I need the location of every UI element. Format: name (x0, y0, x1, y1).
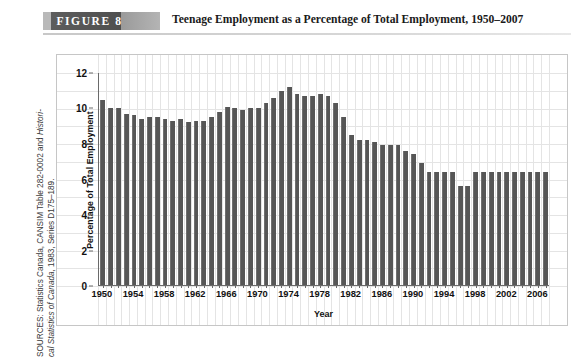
x-axis-tick (118, 285, 119, 288)
bar-slot (511, 73, 519, 285)
y-axis-tick (89, 143, 93, 144)
bar (100, 100, 105, 286)
x-axis-tick (219, 285, 220, 288)
bar (194, 121, 199, 285)
x-axis-tick (328, 285, 329, 288)
x-axis-tick (149, 285, 150, 288)
bar-slot (278, 73, 286, 285)
x-axis-tick (491, 285, 492, 288)
x-axis-tick (250, 285, 251, 288)
x-axis-tick (320, 285, 321, 288)
x-axis-tick-label: 1998 (465, 289, 486, 299)
source-line-1: SOURCES: Statistics Canada, CANSIM Table… (36, 135, 45, 357)
bar-slot (495, 73, 503, 285)
bar (240, 110, 245, 285)
bar (139, 119, 144, 285)
bar-slot (417, 73, 425, 285)
y-axis-tick (89, 179, 93, 180)
bar (427, 172, 432, 285)
x-axis-tick (546, 285, 547, 288)
header-divider (43, 33, 571, 35)
bar (201, 121, 206, 285)
x-axis-tick (134, 285, 135, 288)
x-axis-tick (414, 285, 415, 288)
y-axis-labels: Percentage of Total Employment 024681012 (53, 73, 93, 286)
x-axis-tick (452, 285, 453, 288)
bar-slot (433, 73, 441, 285)
bar-slot (456, 73, 464, 285)
bar (132, 115, 137, 285)
bar-slot (441, 73, 449, 285)
bar-slot (122, 73, 130, 285)
x-axis-tick (266, 285, 267, 288)
bar (318, 94, 323, 285)
y-axis-tick-label: 0 (81, 281, 87, 292)
bar-slot (379, 73, 387, 285)
x-axis-tick (507, 285, 508, 288)
plot-area (98, 73, 549, 286)
bar (520, 172, 525, 285)
x-axis-tick (375, 285, 376, 288)
x-axis-tick-label: 1990 (403, 289, 424, 299)
bar (155, 117, 160, 285)
bar-slot (542, 73, 550, 285)
bar (264, 103, 269, 285)
bar (310, 96, 315, 285)
bar (411, 154, 416, 285)
x-axis-tick (382, 285, 383, 288)
source-line-1-italic: Histori- (36, 109, 45, 135)
bar-slot (161, 73, 169, 285)
bar (465, 186, 470, 285)
bar (326, 96, 331, 285)
x-axis-tick (437, 285, 438, 288)
x-axis-tick-label: 1950 (92, 289, 113, 299)
y-axis-tick (89, 214, 93, 215)
bar (333, 103, 338, 285)
y-axis-tick-label: 8 (81, 138, 87, 149)
x-axis-tick (274, 285, 275, 288)
x-axis-tick-label: 1986 (371, 289, 392, 299)
bar (388, 145, 393, 285)
bar (170, 121, 175, 285)
bar (396, 145, 401, 285)
bar (489, 172, 494, 285)
bar (434, 172, 439, 285)
bar-slot (410, 73, 418, 285)
y-axis-tick (89, 108, 93, 109)
bar-slot (184, 73, 192, 285)
bar-series (99, 73, 549, 285)
bar (349, 135, 354, 285)
x-axis-tick (305, 285, 306, 288)
y-axis-tick-label: 4 (81, 209, 87, 220)
chart-frame: Percentage of Total Employment 024681012… (56, 54, 568, 326)
figure-number-badge: FIGURE 8 (43, 12, 160, 30)
bar (473, 172, 478, 285)
x-axis-tick (398, 285, 399, 288)
bar-slot (309, 73, 317, 285)
x-axis-tick (367, 285, 368, 288)
x-axis-tick (468, 285, 469, 288)
bar-slot (247, 73, 255, 285)
y-axis-tick-label: 12 (76, 68, 87, 79)
bar-slot (192, 73, 200, 285)
bar (341, 117, 346, 285)
x-axis-tick (289, 285, 290, 288)
bar (528, 172, 533, 285)
bar-slot (448, 73, 456, 285)
x-axis-title: Year (98, 309, 549, 319)
bar (287, 87, 292, 285)
bar-slot (130, 73, 138, 285)
bar (248, 108, 253, 285)
x-axis-tick (538, 285, 539, 288)
bar (450, 172, 455, 285)
bar-slot (153, 73, 161, 285)
bar (108, 108, 113, 285)
bar-slot (363, 73, 371, 285)
bar-slot (169, 73, 177, 285)
y-axis-tick (89, 286, 93, 287)
bar-slot (115, 73, 123, 285)
x-axis-tick (181, 285, 182, 288)
x-axis-tick (421, 285, 422, 288)
bar-slot (270, 73, 278, 285)
x-axis-tick (103, 285, 104, 288)
